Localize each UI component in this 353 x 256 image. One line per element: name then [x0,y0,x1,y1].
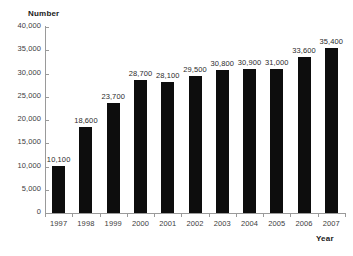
bar[interactable] [79,127,92,214]
y-axis-tick-label: 40,000 [17,21,41,30]
y-axis-tick-label: 30,000 [17,68,41,77]
y-axis-tick-mark [45,143,49,144]
bar-value-label: 28,100 [154,71,181,80]
bar-value-label: 30,900 [236,58,263,67]
x-axis-line [45,213,346,214]
bar-value-label: 35,400 [318,37,345,46]
y-axis-tick-mark [45,74,49,75]
bar[interactable] [216,70,229,213]
x-axis-tick-mark [236,213,237,217]
x-axis-tick-mark [100,213,101,217]
x-axis-tick-label: 1998 [72,219,99,228]
x-axis-tick-label: 2001 [154,219,181,228]
x-axis-tick-label: 2003 [209,219,236,228]
x-axis-tick-mark [45,213,46,217]
y-axis-tick-label: 10,000 [17,161,41,170]
y-axis-tick-mark [45,190,49,191]
x-axis-tick-mark [154,213,155,217]
bar-chart: Number Year 05,00010,00015,00020,00025,0… [0,0,353,256]
x-axis-tick-mark [72,213,73,217]
y-axis-title: Number [28,9,59,18]
x-axis-tick-mark [263,213,264,217]
y-axis-tick-mark [45,167,49,168]
x-axis-tick-label: 2002 [181,219,208,228]
bar-value-label: 10,100 [45,155,72,164]
y-axis-tick-label: 25,000 [17,91,41,100]
x-axis-tick-label: 1999 [100,219,127,228]
y-axis-tick-label: 35,000 [17,44,41,53]
bar[interactable] [243,69,256,213]
bar[interactable] [161,82,174,213]
y-axis-tick-label: 20,000 [17,114,41,123]
y-axis-tick-label: 15,000 [17,137,41,146]
y-axis-tick-mark [45,120,49,121]
bar-value-label: 30,800 [209,59,236,68]
y-axis-tick-mark [45,97,49,98]
bar[interactable] [189,76,202,213]
bar[interactable] [107,103,120,213]
bar[interactable] [325,48,338,213]
x-axis-tick-label: 1997 [45,219,72,228]
bar-value-label: 28,700 [127,69,154,78]
x-axis-tick-mark [181,213,182,217]
x-axis-tick-label: 2005 [263,219,290,228]
x-axis-tick-label: 2004 [236,219,263,228]
y-axis-tick-mark [45,27,49,28]
bar[interactable] [270,69,283,213]
x-axis-tick-mark [127,213,128,217]
x-axis-tick-label: 2007 [318,219,345,228]
x-axis-tick-mark [318,213,319,217]
x-axis-tick-mark [345,213,346,217]
y-axis-tick-mark [45,50,49,51]
x-axis-tick-mark [209,213,210,217]
x-axis-tick-label: 2006 [290,219,317,228]
y-axis-tick-label: 5,000 [22,184,41,193]
bar-value-label: 29,500 [181,65,208,74]
bar-value-label: 18,600 [72,116,99,125]
bar-value-label: 23,700 [100,92,127,101]
bar[interactable] [134,80,147,214]
bar[interactable] [52,166,65,213]
x-axis-tick-mark [290,213,291,217]
bar-value-label: 33,600 [290,46,317,55]
x-axis-title: Year [316,234,334,243]
bar-value-label: 31,000 [263,58,290,67]
x-axis-tick-label: 2000 [127,219,154,228]
y-axis-tick-label: 0 [37,207,41,216]
bar[interactable] [298,57,311,213]
